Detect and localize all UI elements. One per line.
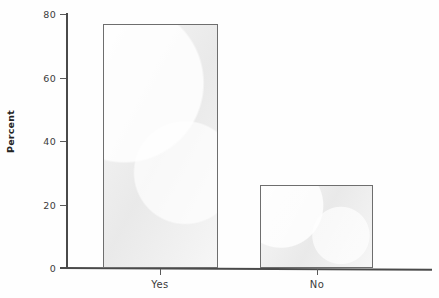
y-axis-line	[66, 13, 68, 269]
x-axis-label-no: No	[282, 279, 352, 290]
x-axis-tick-yes	[160, 269, 161, 275]
bar-yes	[103, 24, 218, 268]
y-axis-tick-40	[60, 141, 66, 142]
bar-no	[260, 185, 373, 268]
bar-chart: 0 20 40 60 80 Percent Yes No	[0, 0, 439, 298]
y-axis-title: Percent	[5, 102, 16, 162]
y-axis-tick-80	[60, 14, 66, 15]
x-axis-tick-no	[317, 269, 318, 275]
y-axis-label-40: 40	[22, 136, 56, 147]
y-axis-label-20: 20	[22, 200, 56, 211]
y-axis-label-0: 0	[22, 263, 56, 274]
y-axis-label-80: 80	[22, 9, 56, 20]
y-axis-label-60: 60	[22, 73, 56, 84]
y-axis-tick-20	[60, 205, 66, 206]
y-axis-tick-60	[60, 78, 66, 79]
x-axis-label-yes: Yes	[125, 279, 195, 290]
